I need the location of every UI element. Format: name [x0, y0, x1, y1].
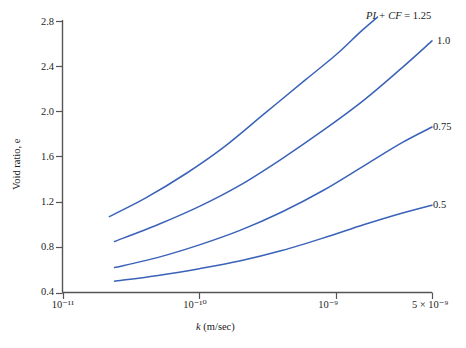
y-tick-label: 1.2 [14, 197, 54, 208]
x-axis-title-rest: (m/sec) [201, 321, 235, 332]
curve-label-125-value: = 1.25 [402, 10, 432, 21]
x-axis-title: k (m/sec) [196, 322, 235, 333]
y-axis-title: Void ratio, e [12, 139, 23, 190]
curve-label-075: 0.75 [433, 122, 451, 133]
data-curves [109, 17, 432, 281]
x-tick-label: 10⁻¹⁰ [164, 300, 226, 311]
curve-label-125-prefix: PI + CF [366, 10, 402, 21]
curve-label-05: 0.5 [433, 200, 446, 211]
curve-0 [109, 17, 377, 216]
y-tick-label: 0.8 [14, 242, 54, 253]
curve-label-10: 1.0 [437, 36, 450, 47]
chart-plot-area [0, 0, 466, 348]
y-tick-label: 2.4 [14, 62, 54, 73]
x-tick-label: 10⁻⁹ [297, 300, 359, 311]
curve-2 [115, 127, 432, 268]
chart-figure: 2.8 2.4 2.0 1.6 1.2 0.8 0.4 10⁻¹¹ 10⁻¹⁰ … [0, 0, 466, 348]
curve-label-125: PI + CF = 1.25 [366, 11, 431, 22]
y-tick-label: 2.8 [14, 17, 54, 28]
x-tick-label: 10⁻¹¹ [32, 300, 94, 311]
x-axis-ticks [64, 293, 433, 300]
y-tick-label: 0.4 [14, 287, 54, 298]
y-tick-label: 2.0 [14, 107, 54, 118]
curve-1 [115, 41, 432, 242]
y-axis-ticks [56, 22, 63, 294]
x-tick-label: 5 × 10⁻⁹ [395, 300, 465, 311]
y-axis-title-text: Void ratio, e [11, 139, 22, 190]
